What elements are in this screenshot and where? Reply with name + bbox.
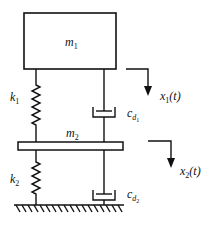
displacement-x1-label: x1(t) xyxy=(159,89,181,105)
mass-m2-plate xyxy=(18,142,123,150)
damper-cd1-label: cd1 xyxy=(127,106,139,123)
mass-m2-label: m2 xyxy=(66,126,79,142)
displacement-x2-arrow xyxy=(148,141,175,168)
spring-k1-label: k1 xyxy=(10,90,19,106)
spring-k1 xyxy=(32,69,40,142)
spring-k2 xyxy=(32,150,40,205)
ground xyxy=(14,205,124,212)
damper-cd2-label: cd2 xyxy=(127,187,139,204)
mass-spring-damper-diagram: m1 k1 cd1 x1(t) m2 x2(t) k2 xyxy=(0,0,216,249)
damper-cd1 xyxy=(93,69,115,142)
displacement-x2-label: x2(t) xyxy=(179,164,201,180)
displacement-x1-arrow xyxy=(126,69,152,96)
spring-k2-label: k2 xyxy=(10,172,19,188)
damper-cd2 xyxy=(93,150,115,205)
